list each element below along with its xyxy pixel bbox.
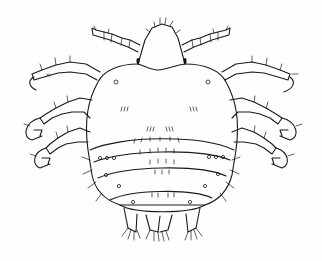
- head: [137, 18, 187, 70]
- leg-left-3: [30, 126, 90, 168]
- illustration-canvas: [0, 0, 322, 261]
- thorax-outline: [86, 64, 237, 205]
- antenna-right: [182, 26, 230, 52]
- crab-louse-drawing: [0, 0, 322, 261]
- abdomen: [90, 137, 234, 212]
- leg-left-2: [24, 96, 92, 140]
- eye-right: [184, 58, 187, 64]
- spiracle: [206, 80, 210, 84]
- lateral-setae: [82, 157, 240, 201]
- leg-right-2: [230, 96, 302, 140]
- spiracle: [114, 80, 118, 84]
- posterior-lobes: [122, 208, 202, 241]
- leg-right-1: [222, 56, 298, 92]
- eye-left: [137, 58, 140, 64]
- leg-right-3: [232, 126, 294, 168]
- leg-left-1: [30, 56, 100, 90]
- antenna-left: [92, 26, 140, 52]
